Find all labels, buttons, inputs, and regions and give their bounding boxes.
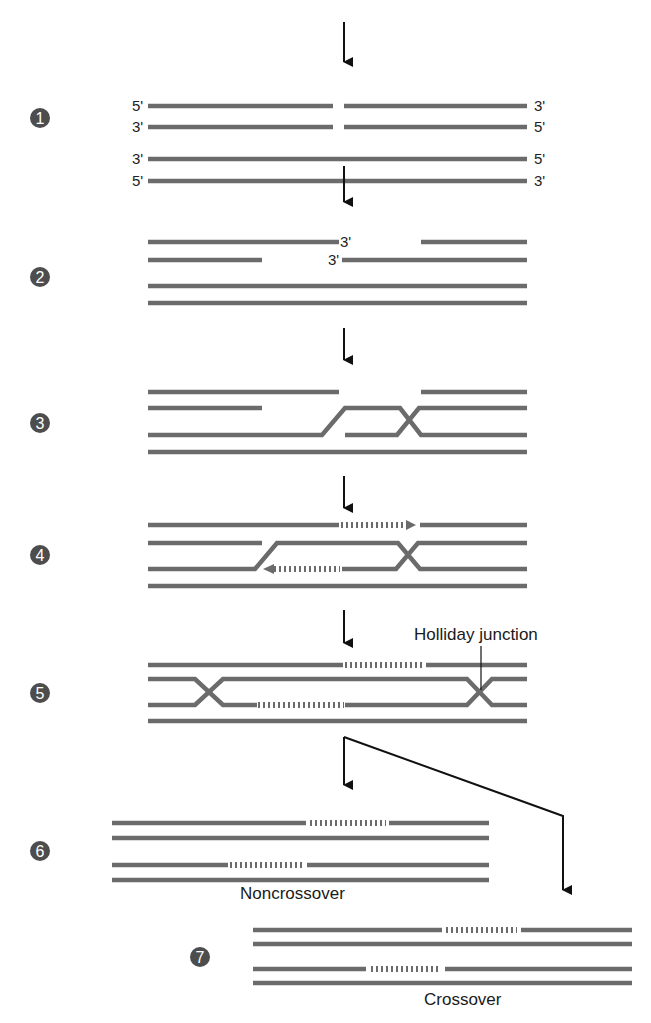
- end-label: 3': [328, 251, 339, 268]
- end-label: 3': [534, 172, 545, 189]
- step-3-number: 3: [36, 415, 45, 432]
- step-1: 1 5' 3' 3' 5' 3' 5' 5' 3': [30, 22, 545, 189]
- step-5: 5 Holliday junction: [30, 610, 538, 721]
- step-2: 2 3' 3': [30, 166, 527, 303]
- synthesis-arrowhead: [263, 564, 274, 574]
- step-1-number: 1: [36, 110, 45, 127]
- hj-strand-lower: [345, 679, 527, 705]
- step-7-number: 7: [196, 949, 205, 966]
- step-4: 4: [30, 476, 527, 586]
- end-label: 3': [340, 233, 351, 250]
- end-label: 3': [534, 97, 545, 114]
- step-4-number: 4: [36, 547, 45, 564]
- end-label: 3': [132, 150, 143, 167]
- step-5-number: 5: [36, 685, 45, 702]
- invading-strand: [148, 543, 527, 569]
- crossing-strand: [342, 543, 527, 569]
- step-2-number: 2: [36, 269, 45, 286]
- end-label: 5': [132, 97, 143, 114]
- invading-strand: [148, 408, 527, 435]
- step-3: 3: [30, 328, 527, 452]
- recombination-diagram: 1 5' 3' 3' 5' 3' 5' 5' 3' 2 3' 3' 3: [0, 0, 651, 1023]
- step-6-number: 6: [36, 843, 45, 860]
- end-label: 3': [132, 118, 143, 135]
- end-label: 5': [534, 118, 545, 135]
- noncrossover-label: Noncrossover: [240, 884, 345, 903]
- step-6-noncrossover: 6 Noncrossover: [30, 823, 489, 903]
- holliday-junction-label: Holliday junction: [414, 625, 538, 644]
- crossover-label: Crossover: [424, 990, 502, 1009]
- step-7-crossover: 7 Crossover: [190, 930, 632, 1009]
- end-label: 5': [534, 150, 545, 167]
- end-label: 5': [132, 172, 143, 189]
- crossing-strand: [345, 408, 527, 435]
- synthesis-arrowhead: [406, 520, 416, 530]
